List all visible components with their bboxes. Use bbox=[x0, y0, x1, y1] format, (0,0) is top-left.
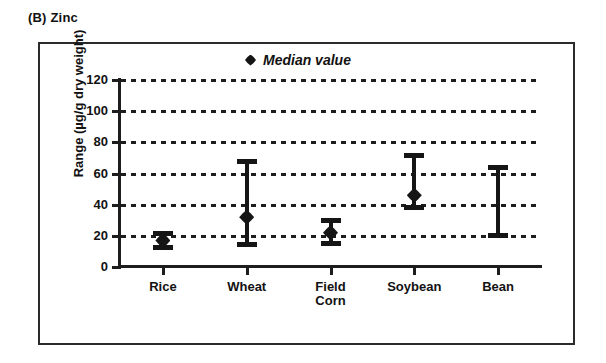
y-tick-mark bbox=[112, 235, 120, 238]
y-tick-mark bbox=[112, 141, 120, 144]
range-cap-lower bbox=[404, 205, 424, 210]
y-tick-label-wrap: 20 bbox=[40, 229, 108, 242]
y-tick-label-wrap: 40 bbox=[40, 198, 108, 211]
x-tick-label-bean: Bean bbox=[443, 280, 553, 294]
y-tick-mark bbox=[112, 79, 120, 82]
y-tick-label-wrap: 60 bbox=[40, 167, 108, 180]
y-tick-label-wrap: 120 bbox=[40, 73, 108, 86]
gridline bbox=[121, 141, 540, 144]
range-stem bbox=[245, 161, 249, 245]
y-tick-mark bbox=[112, 110, 120, 113]
y-tick-mark bbox=[112, 204, 120, 207]
gridline bbox=[121, 204, 540, 207]
y-tick-label: 100 bbox=[62, 104, 108, 117]
x-tick-mark bbox=[246, 268, 249, 275]
gridline bbox=[121, 79, 540, 82]
y-tick-label-wrap: 0 bbox=[40, 260, 108, 273]
y-tick-label: 60 bbox=[62, 167, 108, 180]
y-tick-mark bbox=[112, 266, 120, 269]
median-marker bbox=[323, 225, 338, 240]
diamond-marker-icon bbox=[245, 55, 256, 66]
y-tick-mark bbox=[112, 173, 120, 176]
x-tick-mark bbox=[162, 268, 165, 275]
range-cap-upper bbox=[237, 159, 257, 164]
range-stem bbox=[496, 167, 500, 236]
range-cap-lower bbox=[321, 241, 341, 246]
gridline bbox=[121, 173, 540, 176]
y-tick-label-wrap: 100 bbox=[40, 104, 108, 117]
range-cap-upper bbox=[404, 153, 424, 158]
chart-legend: Median value bbox=[245, 52, 351, 68]
range-cap-upper bbox=[321, 218, 341, 223]
range-cap-upper bbox=[488, 165, 508, 170]
gridline bbox=[121, 110, 540, 113]
x-tick-mark bbox=[413, 268, 416, 275]
legend-label: Median value bbox=[263, 52, 351, 68]
x-tick-mark bbox=[330, 268, 333, 275]
y-tick-label-wrap: 80 bbox=[40, 135, 108, 148]
range-cap-lower bbox=[237, 242, 257, 247]
y-tick-label: 0 bbox=[62, 260, 108, 273]
figure-frame: Range (µg/g dry weight) Median value 020… bbox=[38, 42, 575, 345]
median-marker bbox=[239, 210, 254, 225]
y-tick-label: 20 bbox=[62, 229, 108, 242]
median-marker bbox=[407, 188, 422, 203]
y-tick-label: 40 bbox=[62, 198, 108, 211]
x-tick-mark bbox=[497, 268, 500, 275]
y-tick-label: 80 bbox=[62, 135, 108, 148]
y-tick-label: 120 bbox=[62, 73, 108, 86]
range-cap-lower bbox=[488, 233, 508, 238]
